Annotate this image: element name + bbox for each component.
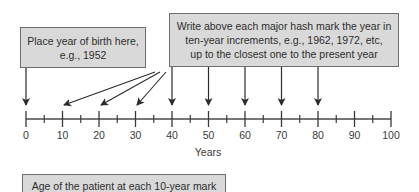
tick-label-90: 90 bbox=[349, 129, 361, 141]
axis-title: Years bbox=[195, 146, 221, 158]
decade-years-box-line: ten-year increments, e.g., 1962, 1972, e… bbox=[185, 33, 382, 47]
decade-years-box: Write above each major hash mark the yea… bbox=[169, 13, 399, 67]
tick-label-20: 20 bbox=[93, 129, 105, 141]
birth-year-box-line: Place year of birth here, bbox=[27, 34, 138, 48]
tick-label-60: 60 bbox=[239, 129, 251, 141]
birth-year-box-line: e.g., 1952 bbox=[60, 48, 107, 62]
tick-label-0: 0 bbox=[23, 129, 29, 141]
tick-label-70: 70 bbox=[276, 129, 288, 141]
tick-label-10: 10 bbox=[57, 129, 69, 141]
decade-years-box-line: Write above each major hash mark the yea… bbox=[177, 19, 392, 33]
tick-label-40: 40 bbox=[166, 129, 178, 141]
patient-age-box-line: Age of the patient at each 10-year mark bbox=[32, 179, 216, 192]
birth-year-box: Place year of birth here, e.g., 1952 bbox=[20, 27, 146, 68]
tick-label-50: 50 bbox=[203, 129, 215, 141]
decade-years-box-line: up to the closest one to the present yea… bbox=[190, 47, 377, 61]
tick-label-30: 30 bbox=[130, 129, 142, 141]
patient-age-box: Age of the patient at each 10-year mark bbox=[22, 174, 226, 192]
tick-label-80: 80 bbox=[312, 129, 324, 141]
tick-label-100: 100 bbox=[382, 129, 400, 141]
